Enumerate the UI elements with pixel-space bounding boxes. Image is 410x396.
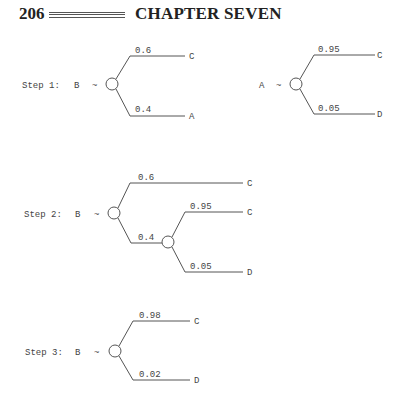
probability-label: 0.4: [135, 105, 151, 115]
chance-node: [106, 78, 118, 90]
probability-label: 0.98: [139, 311, 161, 321]
root-lottery: B: [75, 348, 81, 358]
branch-upper: [300, 55, 375, 79]
probability-label: 0.6: [138, 173, 154, 183]
root-lottery: A: [259, 81, 265, 91]
chance-node: [290, 78, 302, 90]
indifference-symbol: ~: [276, 81, 281, 91]
branch-upper: [116, 56, 185, 79]
lottery-trees-diagram: Step 1: B ~ 0.6 C 0.4 A A ~ 0.95 C 0.05 …: [0, 0, 410, 396]
outcome-label: A: [189, 112, 195, 122]
root-lottery: B: [75, 210, 81, 220]
indifference-symbol: ~: [94, 210, 99, 220]
probability-label: 0.4: [138, 233, 154, 243]
probability-label: 0.95: [318, 45, 340, 55]
outcome-label: D: [247, 268, 252, 278]
branch-sub-upper: [172, 212, 243, 237]
indifference-symbol: ~: [94, 348, 99, 358]
probability-label: 0.95: [190, 202, 212, 212]
probability-label: 0.05: [190, 262, 212, 272]
chance-node: [108, 207, 120, 219]
step-label: Step 2:: [24, 210, 62, 220]
branch-upper: [118, 183, 243, 208]
indifference-symbol: ~: [92, 81, 97, 91]
probability-label: 0.6: [135, 46, 151, 56]
outcome-label: D: [194, 376, 199, 386]
outcome-label: C: [194, 317, 200, 327]
step-label: Step 3:: [25, 348, 63, 358]
chance-node: [109, 345, 121, 357]
outcome-label: D: [377, 110, 382, 120]
step-label: Step 1:: [22, 81, 60, 91]
branch-upper: [119, 321, 190, 346]
chance-node: [162, 236, 174, 248]
outcome-label: C: [247, 208, 253, 218]
outcome-label: C: [247, 179, 253, 189]
outcome-label: C: [189, 52, 195, 62]
probability-label: 0.05: [318, 104, 340, 114]
outcome-label: C: [377, 51, 383, 61]
probability-label: 0.02: [139, 370, 161, 380]
root-lottery: B: [74, 81, 80, 91]
